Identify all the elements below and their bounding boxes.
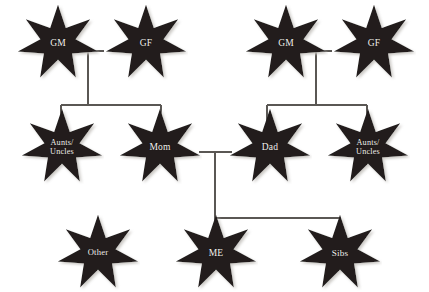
- star-node-gf_paternal[interactable]: GF: [332, 4, 416, 82]
- star-shape-other: [56, 214, 140, 292]
- star-shape-gf_paternal: [332, 4, 416, 82]
- star-shape-aunts_uncles_paternal: [326, 108, 410, 186]
- star-shape-gf_maternal: [104, 4, 188, 82]
- star-shape-mom: [118, 108, 202, 186]
- star-node-mom[interactable]: Mom: [118, 108, 202, 186]
- star-shape-gm_maternal: [16, 4, 100, 82]
- star-shape-dad: [228, 108, 312, 186]
- star-shape-gm_paternal: [244, 4, 328, 82]
- star-shape-sibs: [298, 214, 382, 292]
- star-node-sibs[interactable]: Sibs: [298, 214, 382, 292]
- star-node-aunts_uncles_maternal[interactable]: Aunts/Uncles: [20, 108, 104, 186]
- star-shape-me: [174, 214, 258, 292]
- star-node-gm_paternal[interactable]: GM: [244, 4, 328, 82]
- star-node-aunts_uncles_paternal[interactable]: Aunts/Uncles: [326, 108, 410, 186]
- star-node-gm_maternal[interactable]: GM: [16, 4, 100, 82]
- star-node-gf_maternal[interactable]: GF: [104, 4, 188, 82]
- star-node-other[interactable]: Other: [56, 214, 140, 292]
- star-shape-aunts_uncles_maternal: [20, 108, 104, 186]
- star-node-dad[interactable]: Dad: [228, 108, 312, 186]
- star-node-me[interactable]: ME: [174, 214, 258, 292]
